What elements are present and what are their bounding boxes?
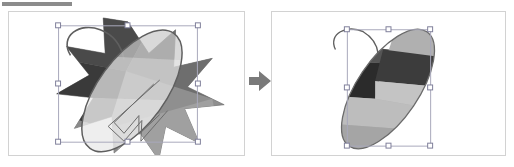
selection-handle-s — [125, 139, 130, 144]
screenshot-stage — [0, 0, 514, 167]
arrow-right-icon — [247, 68, 273, 94]
selection-handle-w — [344, 85, 349, 90]
transform-arrow — [247, 68, 273, 94]
selection-handle-sw — [344, 143, 349, 148]
selection-handle-n — [125, 23, 130, 28]
selection-handle-e — [428, 85, 433, 90]
after-canvas — [272, 12, 505, 155]
selection-handle-nw — [56, 23, 61, 28]
selection-handle-se — [195, 139, 200, 144]
selection-handle-e — [195, 81, 200, 86]
toolbar-strip — [2, 2, 72, 6]
before-canvas — [9, 12, 244, 155]
after-panel[interactable] — [271, 11, 506, 156]
selection-handle-se — [428, 143, 433, 148]
result-band-mid — [421, 73, 480, 114]
result-band-darkest — [316, 59, 383, 98]
selection-handle-nw — [344, 27, 349, 32]
result-hook-path — [334, 29, 378, 53]
selection-handle-n — [386, 27, 391, 32]
selection-handle-ne — [195, 23, 200, 28]
selection-handle-w — [56, 81, 61, 86]
selection-handle-ne — [428, 27, 433, 32]
star-band-accent — [184, 12, 244, 51]
selection-handle-sw — [56, 139, 61, 144]
clipped-ellipse-shape[interactable] — [272, 12, 505, 155]
selection-handle-s — [386, 143, 391, 148]
before-panel[interactable] — [8, 11, 245, 156]
